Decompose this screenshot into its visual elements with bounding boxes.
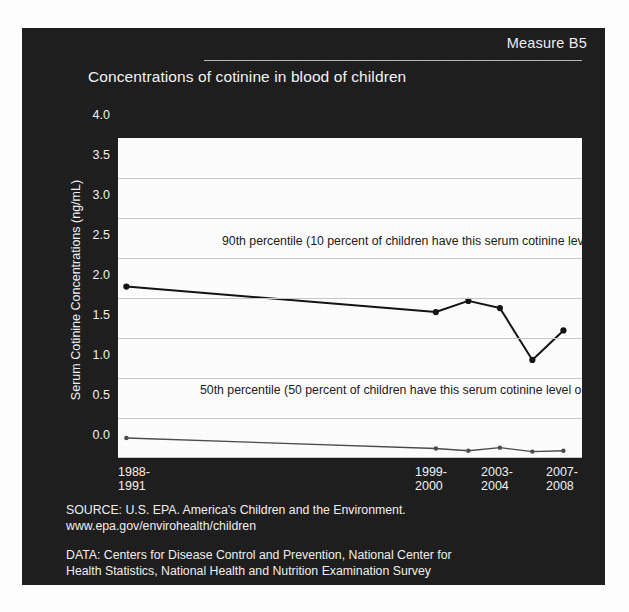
y-tick-label-1.0: 1.0 bbox=[66, 348, 110, 362]
measure-label: Measure B5 bbox=[507, 35, 587, 51]
x-tick-2007-line1: 2007- bbox=[546, 465, 578, 479]
screenshot-root: Measure B5 Concentrations of cotinine in… bbox=[0, 0, 629, 612]
annotation-90th-line1: 90th percentile bbox=[222, 234, 303, 248]
data-point bbox=[497, 305, 503, 311]
data-point bbox=[498, 445, 502, 449]
y-tick-label-3.5: 3.5 bbox=[66, 148, 110, 162]
y-tick-label-3.0: 3.0 bbox=[66, 188, 110, 202]
data-point bbox=[529, 357, 535, 363]
annotation-90th: 90th percentile (10 percent of children … bbox=[222, 234, 482, 248]
gridline-3.0 bbox=[118, 218, 582, 219]
x-tick-label-2003-2004: 2003- 2004 bbox=[481, 465, 513, 493]
gridline-2.5 bbox=[118, 258, 582, 259]
gridline-3.5 bbox=[118, 178, 582, 179]
y-tick-label-4.0: 4.0 bbox=[66, 108, 110, 122]
header-divider bbox=[204, 60, 582, 61]
source-note: SOURCE: U.S. EPA. America's Children and… bbox=[66, 503, 586, 534]
data-point bbox=[433, 309, 439, 315]
gridline-0.5 bbox=[118, 418, 582, 419]
x-tick-label-1988-1991: 1988- 1991 bbox=[118, 465, 150, 493]
annotation-50th: 50th percentile (50 percent of children … bbox=[200, 383, 460, 397]
y-tick-label-0.5: 0.5 bbox=[66, 388, 110, 402]
slide-panel: Measure B5 Concentrations of cotinine in… bbox=[22, 28, 605, 585]
annotation-50th-line2: (50 percent of children have this bbox=[284, 383, 459, 397]
data-point bbox=[561, 449, 565, 453]
gridline-1.5 bbox=[118, 338, 582, 339]
data-note: DATA: Centers for Disease Control and Pr… bbox=[66, 548, 586, 579]
gridline-0.0 bbox=[118, 457, 582, 458]
data-point bbox=[560, 327, 566, 333]
plot-area: 90th percentile (10 percent of children … bbox=[118, 138, 582, 458]
plot-inner: 90th percentile (10 percent of children … bbox=[118, 138, 582, 458]
chart-title: Concentrations of cotinine in blood of c… bbox=[88, 68, 406, 86]
data-point bbox=[434, 446, 438, 450]
annotation-90th-line2: (10 percent of children have this bbox=[306, 234, 481, 248]
x-tick-label-1999-2000: 1999- 2000 bbox=[415, 465, 447, 493]
data-point bbox=[466, 449, 470, 453]
x-tick-2007-line2: 2008 bbox=[546, 479, 578, 493]
x-tick-2003-line2: 2004 bbox=[481, 479, 513, 493]
gridline-1.0 bbox=[118, 378, 582, 379]
x-tick-label-2007-2008: 2007- 2008 bbox=[546, 465, 578, 493]
data-point bbox=[124, 436, 128, 440]
x-tick-1999-line2: 2000 bbox=[415, 479, 447, 493]
x-tick-1988-line1: 1988- bbox=[118, 465, 150, 479]
annotation-90th-line3: serum cotinine level or greater) bbox=[485, 234, 582, 248]
x-tick-1988-line2: 1991 bbox=[118, 479, 150, 493]
annotation-50th-line3: serum cotinine level or greater) bbox=[463, 383, 582, 397]
data-point bbox=[530, 449, 534, 453]
y-tick-label-2.0: 2.0 bbox=[66, 268, 110, 282]
series-line-1 bbox=[126, 438, 563, 452]
y-tick-label-0.0: 0.0 bbox=[66, 428, 110, 442]
data-point bbox=[123, 283, 129, 289]
gridline-2.0 bbox=[118, 298, 582, 299]
x-tick-2003-line1: 2003- bbox=[481, 465, 513, 479]
annotation-50th-line1: 50th percentile bbox=[200, 383, 281, 397]
x-tick-1999-line1: 1999- bbox=[415, 465, 447, 479]
y-tick-label-1.5: 1.5 bbox=[66, 308, 110, 322]
y-tick-label-2.5: 2.5 bbox=[66, 228, 110, 242]
